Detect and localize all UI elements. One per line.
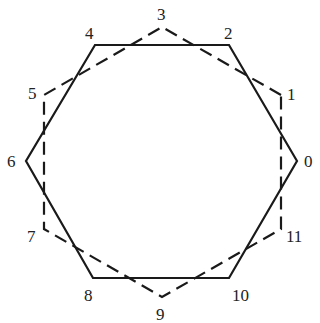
point-labels: 0 1 2 3 4 5 6 7 8 9 10 11 (7, 5, 313, 323)
point-label-8: 8 (84, 286, 93, 305)
point-label-2: 2 (224, 24, 233, 43)
point-label-3: 3 (157, 5, 166, 24)
point-label-9: 9 (156, 305, 165, 323)
hexagon-diagram: 0 1 2 3 4 5 6 7 8 9 10 11 (0, 0, 320, 323)
point-label-1: 1 (287, 85, 296, 104)
point-label-4: 4 (85, 24, 94, 43)
point-label-5: 5 (28, 84, 37, 103)
point-label-7: 7 (27, 227, 36, 246)
point-label-6: 6 (7, 152, 16, 171)
point-label-11: 11 (286, 227, 302, 246)
point-label-10: 10 (232, 286, 249, 305)
point-label-0: 0 (304, 152, 313, 171)
